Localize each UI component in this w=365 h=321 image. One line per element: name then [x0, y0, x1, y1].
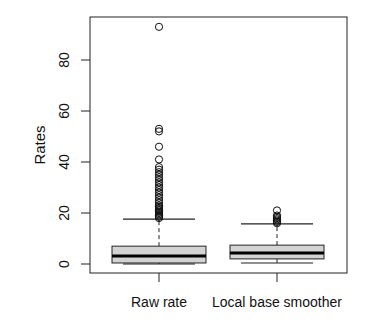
y-tick-label: 20: [56, 205, 72, 221]
x-tick-label: Local base smoother: [212, 294, 342, 310]
outlier-point: [155, 143, 162, 150]
boxplot-chart: 020406080 Rates Raw rateLocal base smoot…: [0, 0, 365, 321]
plot-frame: [90, 17, 347, 273]
x-tick-label: Raw rate: [131, 294, 187, 310]
y-tick-label: 80: [56, 52, 72, 68]
y-tick-label: 0: [56, 260, 72, 268]
outlier-point: [155, 156, 162, 163]
y-tick-label: 60: [56, 103, 72, 119]
outlier-point: [155, 23, 162, 30]
boxes: [112, 23, 324, 264]
box-local-base-smoother: [230, 207, 324, 263]
box-raw-rate: [112, 23, 206, 264]
y-axis: 020406080: [56, 52, 90, 268]
y-axis-label: Rates: [31, 125, 48, 164]
y-tick-label: 40: [56, 154, 72, 170]
x-axis: Raw rateLocal base smoother: [131, 273, 342, 310]
